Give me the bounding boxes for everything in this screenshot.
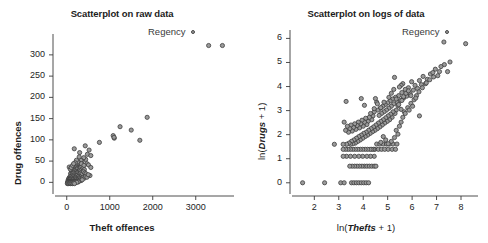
data-point — [323, 181, 327, 185]
data-point — [436, 74, 440, 78]
data-point — [397, 85, 401, 89]
data-point — [373, 96, 377, 100]
data-point — [411, 88, 415, 92]
data-points — [65, 43, 224, 185]
panel-log-data: Scatterplot on logs of data Regency ln(T… — [244, 0, 488, 243]
x-axis-title-logs-var: Thefts — [347, 222, 376, 233]
data-point — [365, 154, 369, 158]
x-axis-title-logs-pre: ln( — [337, 222, 348, 233]
data-point — [407, 108, 411, 112]
data-point — [375, 102, 379, 106]
data-point — [394, 97, 398, 101]
x-tick-label: 8 — [433, 202, 488, 212]
data-point — [342, 181, 346, 185]
data-point — [413, 83, 417, 87]
data-point — [387, 95, 391, 99]
data-point — [382, 100, 386, 104]
data-point — [414, 96, 418, 100]
data-point — [82, 163, 86, 167]
data-point — [389, 91, 393, 95]
data-point — [421, 74, 425, 78]
data-point — [129, 128, 133, 132]
data-point — [89, 165, 93, 169]
y-tick-label: 300 — [3, 49, 45, 59]
data-point — [424, 81, 428, 85]
data-point — [393, 147, 397, 151]
y-tick-label: 4 — [240, 81, 282, 91]
data-point — [464, 42, 468, 46]
data-point — [417, 78, 421, 82]
scatterplot-figure: Scatterplot on raw data Regency Theft of… — [0, 0, 488, 243]
annotated-data-point — [442, 40, 446, 44]
data-point — [377, 113, 381, 117]
data-point — [417, 114, 421, 118]
y-tick-label: 50 — [3, 155, 45, 165]
data-point — [145, 115, 149, 119]
data-point — [87, 148, 91, 152]
data-point — [372, 107, 376, 111]
x-axis-title-logs: ln(Thefts + 1) — [244, 222, 488, 233]
data-point — [396, 132, 400, 136]
data-point — [357, 154, 361, 158]
data-point — [353, 154, 357, 158]
data-point — [428, 78, 432, 82]
y-tick-label: 0 — [240, 177, 282, 187]
y-tick-label: 2 — [240, 129, 282, 139]
y-tick-label: 5 — [240, 56, 282, 66]
y-tick-label: 250 — [3, 70, 45, 80]
data-point — [411, 104, 415, 108]
data-point — [381, 134, 385, 138]
data-point — [97, 140, 101, 144]
data-point — [448, 60, 452, 64]
data-point — [341, 147, 345, 151]
data-points — [301, 42, 468, 185]
data-point — [332, 142, 336, 146]
data-point — [77, 155, 81, 159]
x-axis-title-raw: Theft offences — [0, 222, 244, 233]
data-point — [359, 96, 363, 100]
data-point — [392, 75, 396, 79]
data-point — [409, 94, 413, 98]
data-point — [220, 43, 224, 47]
data-point — [392, 135, 396, 139]
data-point — [344, 99, 348, 103]
data-point — [401, 115, 405, 119]
data-point — [72, 162, 76, 166]
data-point — [395, 142, 399, 146]
x-tick-label: 3000 — [168, 202, 224, 212]
data-point — [410, 80, 414, 84]
data-point — [397, 102, 401, 106]
data-point — [78, 151, 82, 155]
data-point — [83, 144, 87, 148]
x-axis-title-logs-post: + 1) — [376, 222, 395, 233]
data-point — [392, 87, 396, 91]
data-point — [341, 142, 345, 146]
data-point — [406, 89, 410, 93]
data-point — [367, 181, 371, 185]
data-point — [417, 90, 421, 94]
data-point — [138, 138, 142, 142]
data-point — [86, 173, 90, 177]
data-point — [348, 164, 352, 168]
data-point — [437, 70, 441, 74]
data-point — [301, 181, 305, 185]
data-point — [362, 103, 366, 107]
data-point — [72, 147, 76, 151]
data-point — [344, 128, 348, 132]
data-point — [345, 124, 349, 128]
y-tick-label: 100 — [3, 134, 45, 144]
data-point — [379, 106, 383, 110]
data-point — [89, 153, 93, 157]
data-point — [112, 135, 116, 139]
y-tick-label: 0 — [3, 176, 45, 186]
data-point — [379, 140, 383, 144]
y-tick-label: 150 — [3, 113, 45, 123]
data-point — [403, 111, 407, 115]
y-tick-label: 200 — [3, 91, 45, 101]
data-point — [342, 120, 346, 124]
data-point — [420, 86, 424, 90]
data-point — [439, 64, 443, 68]
data-point — [386, 142, 390, 146]
data-point — [445, 70, 449, 74]
data-point — [341, 154, 345, 158]
